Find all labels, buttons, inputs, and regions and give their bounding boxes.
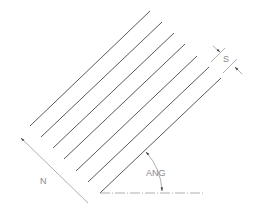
spacing-arrow-upper [213,46,220,52]
hatch-line [41,22,162,137]
hatch-diagram: S N ANG [0,0,255,212]
count-label: N [40,176,47,186]
hatch-line [30,11,150,126]
hatch-lines [30,11,221,193]
angle-label: ANG [146,168,166,178]
spacing-label: S [223,54,229,64]
hatch-line [53,33,174,148]
count-dimension-line [21,138,88,203]
count-dimension: N [21,138,88,203]
spacing-arrow-lower [235,67,242,74]
angle-dimension: ANG [100,152,203,193]
hatch-line [88,67,209,182]
spacing-dimension: S [211,46,242,74]
hatch-line [76,56,197,171]
hatch-line [64,44,185,159]
